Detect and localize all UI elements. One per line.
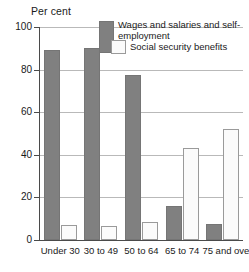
x-axis-label-2: 50 to 64 (121, 245, 162, 256)
plot-area (40, 27, 243, 240)
x-axis-label-4: 75 and over (202, 245, 243, 256)
y-tick-label-80: 80 (0, 65, 32, 75)
bar-benefits-2 (142, 222, 158, 240)
bar-wages-4 (206, 224, 222, 240)
bar-benefits-0 (61, 225, 77, 240)
gridline-40 (40, 155, 243, 156)
bar-wages-2 (125, 75, 141, 240)
y-tick-label-20: 20 (0, 192, 32, 202)
y-tick-label-100: 100 (0, 22, 32, 32)
x-axis-label-1: 30 to 49 (81, 245, 122, 256)
legend-label-benefits: Social security benefits (130, 42, 227, 53)
gridline-80 (40, 70, 243, 71)
x-axis-label-3: 65 to 74 (162, 245, 203, 256)
gridline-60 (40, 112, 243, 113)
x-axis-line (39, 240, 243, 241)
bar-wages-0 (44, 50, 60, 240)
legend-swatch-benefits-icon (111, 40, 126, 54)
y-tick-label-40: 40 (0, 150, 32, 160)
y-tick-label-0: 0 (0, 235, 32, 245)
x-axis-label-0: Under 30 (40, 245, 81, 256)
bar-benefits-4 (223, 129, 239, 240)
bar-chart: Per cent 020406080100 Under 3030 to 4950… (0, 0, 249, 272)
gridline-20 (40, 197, 243, 198)
bar-benefits-1 (101, 226, 117, 240)
y-tick-label-60: 60 (0, 107, 32, 117)
bar-benefits-3 (183, 148, 199, 240)
bar-wages-3 (166, 206, 182, 240)
y-axis-title: Per cent (31, 5, 71, 17)
legend-label-wages: Wages and salaries and self-employment (118, 20, 249, 41)
bar-wages-1 (84, 48, 100, 240)
